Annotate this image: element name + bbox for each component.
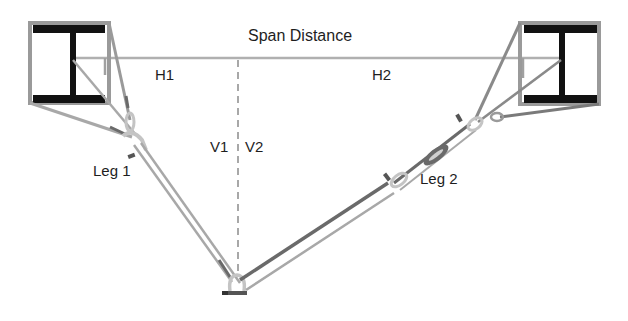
right-beam-slings	[475, 23, 599, 122]
span-distance-label: Span Distance	[248, 28, 352, 44]
h2-label: H2	[372, 67, 391, 82]
bridle-rigging-diagram	[0, 0, 628, 321]
v1-label: V1	[210, 139, 228, 154]
v2-label: V2	[245, 139, 263, 154]
h1-label: H1	[155, 67, 174, 82]
left-i-beam	[30, 23, 109, 103]
turnbuckle	[420, 141, 451, 169]
leg-1-sling	[134, 143, 240, 283]
right-i-beam	[520, 23, 599, 104]
leg-2-label: Leg 2	[420, 171, 458, 186]
left-beam-slings	[30, 23, 136, 137]
leg-1-label: Leg 1	[93, 163, 131, 178]
